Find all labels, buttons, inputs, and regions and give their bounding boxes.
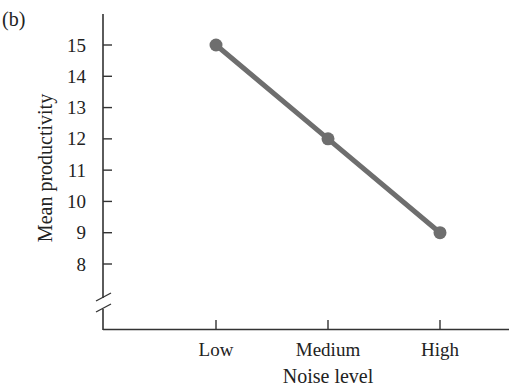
y-tick-label: 13 — [67, 97, 86, 118]
y-tick-label: 8 — [77, 254, 87, 275]
y-tick-label: 12 — [67, 128, 86, 149]
y-axis-title: Mean productivity — [34, 94, 57, 242]
data-point-marker — [434, 226, 447, 239]
data-point-marker — [322, 132, 335, 145]
data-point-marker — [210, 39, 223, 52]
y-tick-label: 15 — [67, 35, 86, 56]
y-tick-label: 14 — [67, 66, 87, 87]
x-tick-label: Medium — [296, 339, 361, 360]
y-tick-label: 10 — [67, 191, 86, 212]
x-axis-title: Noise level — [283, 365, 374, 387]
x-ticks: LowMediumHigh — [199, 320, 460, 360]
y-ticks: 89101112131415 — [67, 35, 112, 275]
x-tick-label: Low — [199, 339, 234, 360]
data-series — [210, 39, 447, 240]
y-tick-label: 11 — [68, 160, 86, 181]
y-tick-label: 9 — [77, 222, 87, 243]
x-tick-label: High — [421, 339, 460, 360]
line-chart: 89101112131415 LowMediumHigh Noise level… — [0, 0, 509, 388]
